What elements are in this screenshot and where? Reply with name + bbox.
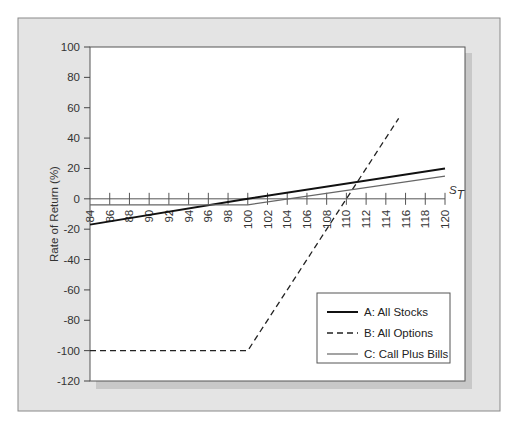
y-tick-label: 80	[67, 71, 80, 83]
y-tick-label: -120	[57, 375, 80, 387]
y-tick-label: 0	[74, 193, 80, 205]
x-tick-label: 106	[301, 210, 313, 229]
x-tick-label: 100	[242, 210, 254, 229]
y-tick-label: 20	[67, 162, 80, 174]
legend-label: B: All Options	[364, 327, 433, 339]
legend: A: All StocksB: All OptionsC: Call Plus …	[317, 293, 450, 363]
y-tick-label: -60	[63, 284, 80, 296]
x-tick-label: 110	[340, 210, 352, 228]
y-tick-label: 60	[67, 102, 80, 114]
x-tick-label: 102	[262, 210, 274, 229]
y-tick-label: -100	[57, 345, 80, 357]
x-tick-label: 114	[380, 209, 392, 228]
y-tick-label: 40	[67, 132, 80, 144]
x-tick-label: 116	[400, 210, 412, 228]
y-axis-title: Rate of Return (%)	[48, 166, 60, 262]
x-tick-label: 104	[281, 209, 293, 229]
x-tick-label: 108	[321, 210, 333, 229]
x-tick-label: 96	[202, 210, 214, 223]
y-tick-label: -80	[63, 314, 80, 326]
x-tick-label: 98	[222, 210, 234, 223]
y-tick-label: 100	[61, 41, 80, 53]
x-tick-label: 112	[360, 210, 372, 228]
legend-label: C: Call Plus Bills	[364, 348, 449, 360]
legend-label: A: All Stocks	[364, 306, 428, 318]
x-tick-label: 120	[439, 210, 451, 229]
x-tick-label: 88	[123, 210, 135, 223]
y-tick-label: -20	[63, 223, 80, 235]
x-tick-label: 118	[419, 210, 431, 228]
x-tick-label: 84	[84, 209, 96, 222]
x-tick-label: 94	[183, 209, 195, 222]
chart: 100806040200-20-40-60-80-100-120 8486889…	[0, 0, 516, 440]
y-tick-label: -40	[63, 254, 80, 266]
